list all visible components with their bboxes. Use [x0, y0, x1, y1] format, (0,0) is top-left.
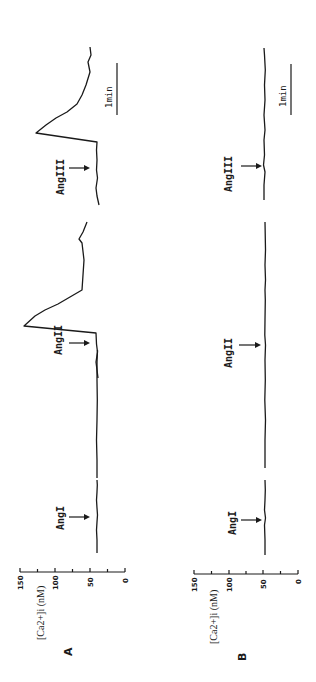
panel-b-label: B: [236, 653, 249, 661]
panel-a-ytick-0: 0: [122, 578, 130, 583]
panel-a-label-angii: AngII: [53, 325, 64, 355]
panel-b-arrow-angii: [239, 342, 261, 348]
panel-a-ytick-150: 150: [17, 575, 25, 590]
panel-a-trace-angiii-response: [36, 47, 99, 205]
panel-a: 150 100 50 0 [Ca2+]i (nM) A AngI AngII A…: [17, 47, 130, 656]
panel-b-y-axis: 150 100 50 0 [Ca2+]i (nM): [191, 570, 303, 644]
panel-b-trace-angiii: [264, 48, 266, 200]
panel-b-label-angiii: AngIII: [223, 156, 234, 192]
panel-a-arrow-angiii: [69, 165, 90, 171]
panel-a-label-angiii: AngIII: [55, 159, 66, 195]
panel-a-y-axis-label: [Ca2+]i (nM): [35, 586, 47, 640]
panel-b-trace-angi: [265, 480, 266, 555]
panel-b-label-angii: AngII: [223, 338, 234, 368]
panel-a-ytick-100: 100: [52, 575, 60, 590]
panel-b-scale-bar-label: 1min: [278, 85, 288, 107]
panel-a-arrow-angi: [69, 514, 90, 520]
panel-b-ytick-100: 100: [226, 577, 234, 592]
panel-a-label-angi: AngI: [55, 506, 66, 530]
panel-b-label-angi: AngI: [227, 511, 238, 535]
panel-b-ytick-50: 50: [260, 579, 268, 589]
panel-a-label: A: [62, 647, 75, 656]
panel-b-ytick-150: 150: [191, 577, 199, 592]
panel-b: 150 100 50 0 [Ca2+]i (nM) B AngI AngII A…: [191, 48, 303, 661]
panel-b-arrow-angiii: [241, 163, 262, 169]
panel-a-trace-angi: [97, 480, 98, 553]
panel-a-ytick-50: 50: [87, 577, 95, 587]
panel-b-trace-angii: [265, 222, 266, 468]
panel-a-scale-bar-label: 1min: [104, 86, 114, 108]
panel-b-y-axis-label: [Ca2+]i (nM): [208, 590, 220, 644]
figure-canvas: 150 100 50 0 [Ca2+]i (nM) A AngI AngII A…: [0, 0, 316, 682]
panel-a-y-axis: 150 100 50 0 [Ca2+]i (nM): [17, 568, 130, 640]
panel-b-scale-bar: 1min: [278, 64, 291, 115]
panel-b-arrow-angi: [241, 517, 262, 523]
panel-a-arrow-angii: [69, 340, 90, 346]
panel-a-scale-bar: 1min: [104, 63, 117, 115]
panel-b-ytick-0: 0: [295, 579, 303, 584]
